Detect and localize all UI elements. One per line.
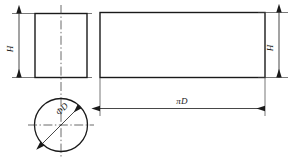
dimension-developed-length: πD (100, 96, 265, 109)
dimension-height-left: H (5, 14, 19, 78)
dimension-height-right: H (265, 13, 279, 78)
extension-lines-left-height (12, 14, 92, 78)
technical-drawing-canvas: H H πD ΦD (0, 0, 295, 160)
dimension-label-height-right: H (265, 44, 275, 52)
dimension-label-diameter: ΦD (53, 100, 70, 117)
dimension-label-developed-length: πD (176, 96, 188, 106)
development-rectangle (100, 13, 265, 78)
dimension-label-height-left: H (5, 45, 15, 53)
